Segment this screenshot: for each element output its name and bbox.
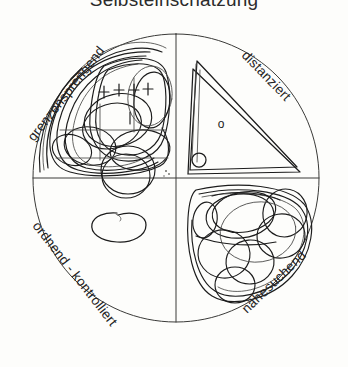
quadrant-lower-right-marks [188, 185, 312, 303]
scribble-oval-tail [116, 214, 121, 221]
scribble-oval [92, 213, 146, 242]
figure-canvas: Selbsteinschätzung [0, 0, 348, 367]
quadrant-labels: grenzensprengend distanziert ordnend - k… [25, 43, 309, 329]
scribble-oval [204, 191, 276, 242]
plus-icon [143, 83, 153, 95]
speck [168, 173, 170, 175]
quadrant-label-ordnend-kontrolliert: ordnend - kontrolliert [30, 219, 121, 329]
small-circle-mark [192, 153, 206, 167]
quadrant-upper-right-marks: o [188, 61, 300, 174]
quadrant-diagram: o [0, 0, 348, 367]
quadrant-upper-left-marks [39, 42, 176, 198]
circle-glyph: o [218, 117, 225, 131]
speck [165, 170, 167, 172]
scribble-outline [192, 190, 308, 296]
scribble-oval [79, 87, 156, 152]
center-specks [163, 170, 170, 177]
scribble-oval [195, 227, 253, 282]
triangle-edge [197, 70, 200, 162]
quadrant-label-distanziert: distanziert [239, 48, 294, 104]
quadrant-lower-left-marks [92, 213, 146, 242]
speck [163, 175, 165, 177]
